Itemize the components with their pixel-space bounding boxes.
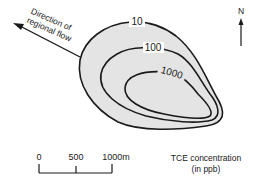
north-label: N xyxy=(238,6,244,16)
scale-tick-1000m: 1000m xyxy=(102,152,130,162)
scale-bar xyxy=(39,164,112,173)
contour-label-10: 10 xyxy=(131,16,143,27)
scale-tick-0: 0 xyxy=(36,152,41,162)
north-arrow-icon xyxy=(239,18,244,46)
plume-diagram: 10 100 1000 Direction of regional flow N… xyxy=(0,0,253,179)
legend-line1: TCE concentration xyxy=(171,153,242,163)
legend-line2: (in ppb) xyxy=(192,164,221,174)
contour-label-100: 100 xyxy=(145,42,162,53)
scale-tick-500: 500 xyxy=(68,152,83,162)
